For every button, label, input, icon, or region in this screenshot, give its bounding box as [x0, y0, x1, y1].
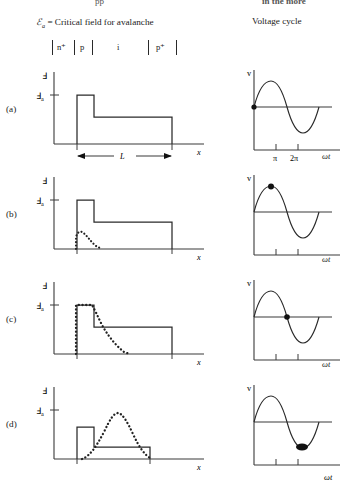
voltage-plot-a: v π 2π	[232, 62, 350, 167]
panel-row-b: (b) Ⅎ Ⅎa x v	[0, 167, 353, 272]
field-plot-c: Ⅎ Ⅎa x	[32, 272, 212, 377]
field-x-axis-label-c: x	[196, 358, 201, 367]
layer-divider-2	[92, 40, 93, 55]
voltage-plot-b: v	[232, 167, 350, 272]
panel-row-d: (d) Ⅎ Ⅎa x v	[0, 377, 353, 482]
voltage-axis-label-c: v	[247, 279, 252, 288]
voltage-x-axis-label-c: ωt	[322, 360, 330, 369]
field-axis-label-d: Ⅎ	[42, 386, 47, 396]
panel-label-b: (b)	[6, 209, 17, 219]
cropped-page-header: pp in the more	[0, 0, 353, 7]
voltage-x-axis-label-b: ωt	[322, 255, 330, 264]
voltage-x-axis-label-a: ωt	[322, 152, 330, 161]
phase-marker-a	[251, 104, 256, 109]
field-x-axis-label-a: x	[196, 148, 201, 157]
layer-divider-3	[148, 40, 149, 55]
voltage-plot-d: v ωt	[232, 377, 350, 482]
field-axis-label-b: Ⅎ	[42, 176, 47, 186]
cropped-header-right: in the more	[262, 0, 306, 6]
phase-marker-d	[296, 444, 308, 451]
field-critical-tick-label-c: Ⅎa	[36, 301, 44, 312]
legend-text: = Critical field for avalanche	[45, 17, 154, 27]
layer-label-i: i	[117, 42, 119, 52]
field-axis-label-c: Ⅎ	[42, 281, 47, 291]
voltage-plot-c: v	[232, 272, 350, 377]
voltage-tick-pi-a: π	[273, 154, 278, 163]
field-x-axis-label-d: x	[196, 463, 201, 472]
voltage-axis-label-b: v	[247, 174, 252, 183]
field-critical-tick-label-a: Ⅎa	[36, 91, 44, 102]
phase-marker-b	[268, 184, 274, 190]
layer-divider-1	[74, 40, 75, 55]
impatt-field-voltage-figure: pp in the more ℰa = Critical field for a…	[0, 0, 353, 485]
panel-row-a: (a) Ⅎ Ⅎa x L v	[0, 62, 353, 167]
field-plot-d: Ⅎ Ⅎa x	[32, 377, 212, 482]
voltage-axis-label-d: v	[247, 384, 252, 393]
cropped-header-left: pp	[95, 0, 104, 6]
layer-divider-0	[52, 40, 53, 55]
field-critical-tick-label-d: Ⅎa	[36, 406, 44, 417]
panel-label-c: (c)	[6, 314, 16, 324]
panel-label-d: (d)	[6, 419, 17, 429]
length-dimension-label: L	[119, 152, 125, 161]
voltage-x-axis-label-d: ωt	[324, 473, 333, 482]
layer-label-p-plus: p⁺	[156, 42, 165, 52]
field-plot-a: Ⅎ Ⅎa x L	[32, 62, 212, 167]
layer-label-p: p	[80, 42, 84, 52]
device-layer-bar: n⁺ p i p⁺	[52, 38, 182, 58]
voltage-cycle-heading: Voltage cycle	[252, 16, 302, 26]
voltage-tick-2pi-a: 2π	[290, 154, 299, 163]
layer-divider-4	[176, 40, 177, 55]
panel-row-c: (c) Ⅎ Ⅎa x v	[0, 272, 353, 377]
layer-label-n-plus: n⁺	[57, 42, 66, 52]
voltage-axis-label-a: v	[247, 69, 252, 78]
phase-marker-c	[284, 314, 290, 320]
critical-field-legend: ℰa = Critical field for avalanche	[36, 16, 154, 29]
panel-label-a: (a)	[6, 104, 16, 114]
field-x-axis-label-b: x	[196, 253, 201, 262]
field-axis-label-a: Ⅎ	[42, 71, 47, 81]
field-plot-b: Ⅎ Ⅎa x	[32, 167, 212, 272]
field-critical-tick-label-b: Ⅎa	[36, 196, 44, 207]
